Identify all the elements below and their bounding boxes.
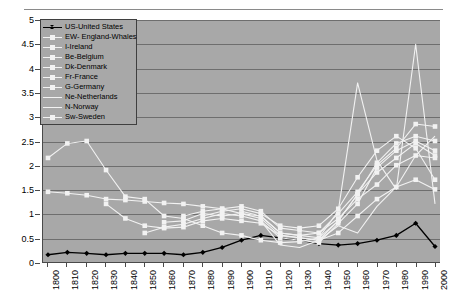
data-point xyxy=(375,182,380,187)
data-point xyxy=(201,209,206,214)
x-axis-tick-mark xyxy=(280,263,281,267)
data-point xyxy=(433,124,438,129)
data-point xyxy=(278,226,283,231)
legend-item-EW[interactable]: EW- England-Whales xyxy=(43,32,133,42)
x-axis-tick-mark xyxy=(163,263,164,267)
data-point xyxy=(259,209,264,214)
data-point xyxy=(200,250,205,255)
y-axis-tick-label: 2.5 xyxy=(21,137,34,147)
legend-item-label: Ne-Netherlands xyxy=(65,92,118,102)
y-axis-tick-label: 3 xyxy=(29,112,34,122)
data-point xyxy=(220,214,225,219)
x-axis-tick-mark xyxy=(299,263,300,267)
data-point xyxy=(375,170,380,175)
data-point xyxy=(413,122,418,127)
y-axis-tick-label: 4 xyxy=(29,64,34,74)
x-axis-tick-label: 2000 xyxy=(439,270,449,290)
series-US xyxy=(45,221,437,258)
x-axis-tick-mark xyxy=(86,263,87,267)
legend-swatch-icon xyxy=(43,52,62,62)
x-axis-tick-mark xyxy=(260,263,261,267)
data-point xyxy=(84,193,89,198)
data-point xyxy=(162,225,167,230)
x-axis-tick-mark xyxy=(416,263,417,267)
legend-item-Sw[interactable]: Sw-Sweden xyxy=(43,112,133,122)
series-Ne xyxy=(242,44,436,238)
data-point xyxy=(297,239,302,244)
legend-item-label: Dk-Denmark xyxy=(65,62,107,72)
x-axis: 1800181018201830184018501860187018801890… xyxy=(42,263,440,305)
x-axis-tick-mark xyxy=(125,263,126,267)
legend-item-Be[interactable]: Be-Belgium xyxy=(43,52,133,62)
legend-item-label: I-Ireland xyxy=(65,42,93,52)
data-point xyxy=(104,202,109,207)
data-point xyxy=(336,219,341,224)
x-axis-tick-label: 1890 xyxy=(226,270,236,290)
data-point xyxy=(65,191,70,196)
series-line xyxy=(48,141,435,243)
x-axis-tick-label: 1820 xyxy=(90,270,100,290)
y-axis-tick-mark xyxy=(35,214,40,215)
x-axis-tick-mark xyxy=(435,263,436,267)
legend-item-label: EW- England-Whales xyxy=(65,32,137,42)
data-point xyxy=(394,141,399,146)
data-point xyxy=(104,168,109,173)
data-point xyxy=(142,231,147,236)
x-axis-tick-label: 1870 xyxy=(187,270,197,290)
data-point xyxy=(181,216,186,221)
x-axis-tick-label: 1930 xyxy=(303,270,313,290)
data-point xyxy=(355,175,360,180)
data-point xyxy=(220,231,225,236)
x-axis-tick-label: 1980 xyxy=(400,270,410,290)
data-point xyxy=(104,197,109,202)
legend-item-Ne[interactable]: Ne-Netherlands xyxy=(43,92,133,102)
legend-item-US[interactable]: US-United States xyxy=(43,22,133,32)
data-point xyxy=(336,242,341,247)
x-axis-tick-label: 1950 xyxy=(342,270,352,290)
data-point xyxy=(239,233,244,238)
data-point xyxy=(355,241,360,246)
data-point xyxy=(46,156,51,161)
y-axis-tick-label: 4.5 xyxy=(21,39,34,49)
x-axis-tick-label: 1990 xyxy=(420,270,430,290)
legend-item-I[interactable]: I-Ireland xyxy=(43,42,133,52)
x-axis-tick-label: 1970 xyxy=(381,270,391,290)
y-axis-tick-mark xyxy=(35,263,40,264)
data-point xyxy=(394,146,399,151)
x-axis-tick-label: 1860 xyxy=(167,270,177,290)
x-axis-tick-mark xyxy=(377,263,378,267)
legend-item-Dk[interactable]: Dk-Denmark xyxy=(43,62,133,72)
series-Sw xyxy=(46,139,438,245)
y-axis-tick-label: 0.5 xyxy=(21,234,34,244)
legend-item-Fr[interactable]: Fr-France xyxy=(43,72,133,82)
legend-item-G[interactable]: G-Germany xyxy=(43,82,133,92)
x-axis-tick-mark xyxy=(183,263,184,267)
chart-legend: US-United StatesEW- England-WhalesI-Irel… xyxy=(40,19,137,125)
legend-swatch-icon xyxy=(43,62,62,72)
x-axis-tick-mark xyxy=(202,263,203,267)
x-axis-tick-label: 1850 xyxy=(148,270,158,290)
legend-item-N[interactable]: N-Norway xyxy=(43,102,133,112)
legend-swatch-icon xyxy=(43,22,62,32)
data-point xyxy=(162,201,167,206)
data-point xyxy=(355,214,360,219)
data-point xyxy=(317,236,322,241)
data-point xyxy=(433,153,438,158)
data-point xyxy=(45,252,50,257)
data-point xyxy=(413,146,418,151)
data-point xyxy=(394,156,399,161)
data-point xyxy=(413,134,418,139)
chart-container: 54.543.532.521.510.50 180018101820183018… xyxy=(0,0,451,305)
y-axis-tick-mark xyxy=(35,190,40,191)
data-point xyxy=(239,204,244,209)
y-axis-tick-mark xyxy=(35,166,40,167)
x-axis-tick-label: 1900 xyxy=(245,270,255,290)
y-axis-tick-mark xyxy=(35,142,40,143)
data-point xyxy=(142,223,147,228)
legend-swatch-icon xyxy=(43,32,62,42)
x-axis-tick-mark xyxy=(357,263,358,267)
data-point xyxy=(394,163,399,168)
data-point xyxy=(433,139,438,144)
data-point xyxy=(278,240,283,245)
y-axis-tick-label: 5 xyxy=(29,15,34,25)
